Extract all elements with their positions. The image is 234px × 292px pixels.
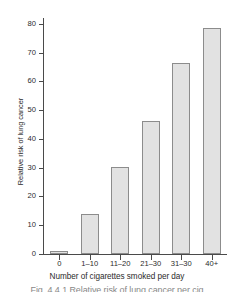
bar <box>172 63 190 254</box>
y-tick-label: 20 <box>28 190 36 201</box>
y-tick-label: 0 <box>32 248 36 259</box>
x-axis-title: Number of cigarettes smoked per day <box>0 272 234 281</box>
bar <box>81 214 99 254</box>
bar-slot <box>172 18 190 254</box>
y-tick: 0 <box>39 254 44 255</box>
figure-lung-cancer-risk: Relative risk of lung cancer 01020304050… <box>0 0 234 292</box>
plot-area: 01020304050607080 01–1011–2021–3031–3040… <box>43 18 227 255</box>
x-tick-label: 1–10 <box>75 258 106 269</box>
bar-slot <box>203 18 221 254</box>
x-tick-label: 21–30 <box>136 258 167 269</box>
y-tick-label: 40 <box>28 133 36 144</box>
bar <box>111 167 129 254</box>
x-tick-label: 0 <box>44 258 75 269</box>
bar-slot <box>50 18 68 254</box>
x-tick-label: 11–20 <box>105 258 136 269</box>
bar-slot <box>81 18 99 254</box>
bar-slot <box>142 18 160 254</box>
bar <box>50 251 68 254</box>
bar <box>203 28 221 254</box>
y-tick-label: 60 <box>28 75 36 86</box>
y-tick-mark <box>39 254 44 255</box>
bar <box>142 121 160 254</box>
x-tick-label: 31–30 <box>166 258 197 269</box>
y-tick-label: 30 <box>28 162 36 173</box>
y-axis-title: Relative risk of lung cancer <box>14 14 28 269</box>
y-tick-label: 70 <box>28 47 36 58</box>
x-tick-label: 40+ <box>197 258 228 269</box>
bar-slot <box>111 18 129 254</box>
y-tick-label: 10 <box>28 219 36 230</box>
y-tick-label: 80 <box>28 18 36 29</box>
bar-series <box>44 18 227 254</box>
x-axis-line <box>43 254 227 255</box>
figure-caption: Fig. 4.4.1 Relative risk of lung cancer … <box>0 285 234 292</box>
y-tick-label: 50 <box>28 104 36 115</box>
